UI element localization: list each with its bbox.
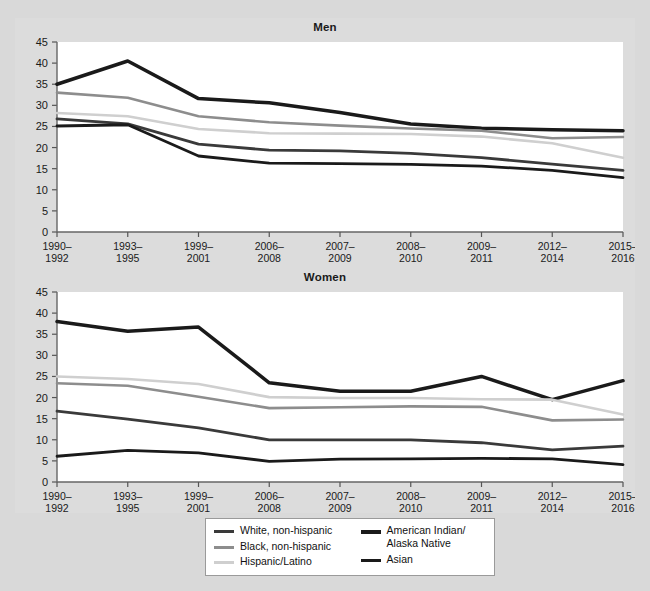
- x-tick-label: 1995: [116, 502, 140, 513]
- y-tick-label: 45: [36, 36, 48, 48]
- x-tick-label: 2015–: [608, 240, 635, 252]
- x-tick-label: 2010: [399, 502, 423, 513]
- men-chart-svg: 0510152025303540451990–19921993–19951999…: [15, 36, 635, 268]
- panel-men-title: Men: [15, 18, 635, 36]
- y-tick-label: 35: [36, 328, 48, 340]
- x-tick-label: 2008: [258, 502, 282, 513]
- x-tick-label: 2009: [328, 252, 352, 264]
- x-tick-label: 2008–: [396, 490, 425, 502]
- legend-swatch-icon: [214, 546, 234, 549]
- x-tick-label: 1999–: [184, 490, 213, 502]
- x-tick-label: 2016: [611, 252, 635, 264]
- legend-label: American Indian/ Alaska Native: [387, 524, 466, 550]
- x-tick-label: 2008–: [396, 240, 425, 252]
- y-tick-label: 10: [36, 184, 48, 196]
- x-tick-label: 2009–: [467, 490, 496, 502]
- y-tick-label: 0: [42, 476, 48, 488]
- x-tick-label: 2006–: [255, 240, 284, 252]
- panel-women-title: Women: [15, 268, 635, 286]
- legend-swatch-icon: [361, 530, 381, 534]
- x-tick-label: 2001: [187, 252, 211, 264]
- y-tick-label: 40: [36, 307, 48, 319]
- legend-item-american-indian[interactable]: American Indian/ Alaska Native: [361, 524, 486, 551]
- x-tick-label: 2008: [258, 252, 282, 264]
- x-tick-label: 2011: [470, 502, 493, 513]
- x-tick-label: 2011: [470, 252, 493, 264]
- legend-item-white[interactable]: White, non-hispanic: [214, 524, 361, 538]
- y-tick-label: 20: [36, 142, 48, 154]
- x-tick-label: 1992: [45, 252, 69, 264]
- panel-women: Women 0510152025303540451990–19921993–19…: [15, 268, 635, 513]
- y-tick-label: 10: [36, 434, 48, 446]
- legend-label: Black, non-hispanic: [240, 540, 331, 553]
- x-tick-label: 2012–: [538, 240, 567, 252]
- x-tick-label: 1999–: [184, 240, 213, 252]
- y-tick-label: 5: [42, 205, 48, 217]
- x-tick-label: 2007–: [325, 490, 354, 502]
- x-tick-label: 2001: [187, 502, 211, 513]
- women-chart-svg: 0510152025303540451990–19921993–19951999…: [15, 286, 635, 513]
- x-tick-label: 2010: [399, 252, 423, 264]
- legend-label: Hispanic/Latino: [240, 555, 312, 568]
- x-tick-label: 2012–: [538, 490, 567, 502]
- panel-men: Men 0510152025303540451990–19921993–1995…: [15, 18, 635, 268]
- y-tick-label: 15: [36, 163, 48, 175]
- x-tick-label: 2015–: [608, 490, 635, 502]
- x-tick-label: 2016: [611, 502, 635, 513]
- chart-page: Men 0510152025303540451990–19921993–1995…: [0, 0, 650, 591]
- y-tick-label: 0: [42, 226, 48, 238]
- legend-column-left: White, non-hispanic Black, non-hispanic …: [214, 524, 361, 571]
- x-tick-label: 2009: [328, 502, 352, 513]
- panel-women-plot: 0510152025303540451990–19921993–19951999…: [15, 286, 635, 513]
- legend-swatch-icon: [214, 530, 234, 533]
- x-tick-label: 1990–: [42, 240, 71, 252]
- y-tick-label: 5: [42, 455, 48, 467]
- x-tick-label: 1993–: [113, 240, 142, 252]
- y-tick-label: 25: [36, 120, 48, 132]
- panel-men-plot: 0510152025303540451990–19921993–19951999…: [15, 36, 635, 268]
- legend-item-black[interactable]: Black, non-hispanic: [214, 540, 361, 554]
- y-tick-label: 15: [36, 413, 48, 425]
- x-tick-label: 2007–: [325, 240, 354, 252]
- legend-swatch-icon: [214, 561, 234, 564]
- x-tick-label: 1993–: [113, 490, 142, 502]
- y-tick-label: 35: [36, 78, 48, 90]
- x-tick-label: 1995: [116, 252, 140, 264]
- legend-column-right: American Indian/ Alaska Native Asian: [361, 524, 486, 571]
- legend-label: Asian: [387, 553, 413, 566]
- x-tick-label: 2009–: [467, 240, 496, 252]
- y-tick-label: 30: [36, 349, 48, 361]
- legend-item-asian[interactable]: Asian: [361, 553, 486, 568]
- x-tick-label: 1990–: [42, 490, 71, 502]
- x-tick-label: 2006–: [255, 490, 284, 502]
- y-tick-label: 25: [36, 370, 48, 382]
- chart-legend: White, non-hispanic Black, non-hispanic …: [205, 518, 495, 576]
- y-tick-label: 20: [36, 392, 48, 404]
- x-tick-label: 2014: [541, 252, 565, 264]
- y-tick-label: 45: [36, 286, 48, 298]
- legend-swatch-icon: [361, 559, 381, 562]
- x-tick-label: 2014: [541, 502, 565, 513]
- x-tick-label: 1992: [45, 502, 69, 513]
- legend-item-hispanic[interactable]: Hispanic/Latino: [214, 555, 361, 569]
- y-tick-label: 40: [36, 57, 48, 69]
- legend-label: White, non-hispanic: [240, 524, 332, 537]
- y-tick-label: 30: [36, 99, 48, 111]
